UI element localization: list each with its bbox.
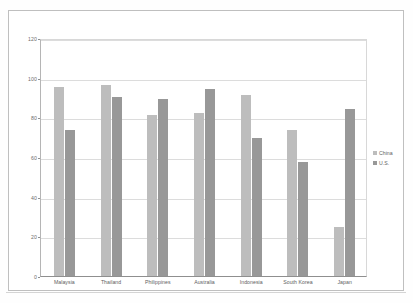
bar-indonesia-us [252, 138, 262, 276]
x-axis-tick-label: Indonesia [228, 279, 275, 285]
y-axis-tick-label: 60 [15, 155, 37, 161]
bar-thailand-china [101, 85, 111, 276]
legend-label-china: China [379, 150, 393, 156]
chart-legend: China U.S. [373, 149, 413, 169]
bar-japan-china [334, 227, 344, 276]
bar-south-korea-china [287, 130, 297, 276]
y-axis-tick-mark [38, 277, 40, 278]
bar-malaysia-china [54, 87, 64, 276]
y-axis-tick-mark [38, 158, 40, 159]
x-axis-tick-label: South Korea [275, 279, 322, 285]
bars-layer [41, 40, 366, 276]
x-axis-tick-label: Philippines [134, 279, 181, 285]
y-axis-tick-mark [38, 118, 40, 119]
y-axis-tick-label: 120 [15, 36, 37, 42]
x-axis-tick-label: Malaysia [41, 279, 88, 285]
bar-thailand-us [112, 97, 122, 276]
legend-swatch-icon-us [373, 161, 377, 165]
y-axis-tick-label: 20 [15, 234, 37, 240]
bar-chart-figure: 120100806040200 MalaysiaThailandPhilippi… [0, 0, 413, 303]
chart-frame: 120100806040200 MalaysiaThailandPhilippi… [8, 10, 404, 291]
bar-malaysia-us [65, 130, 75, 276]
y-axis-tick-label: 80 [15, 115, 37, 121]
y-axis-tick-label: 40 [15, 195, 37, 201]
y-axis-tick-label: 0 [15, 274, 37, 280]
bar-south-korea-us [298, 162, 308, 276]
y-axis: 120100806040200 [13, 39, 37, 277]
bar-japan-us [345, 109, 355, 276]
y-axis-tick-mark [38, 79, 40, 80]
legend-item-us[interactable]: U.S. [373, 159, 413, 166]
x-axis: MalaysiaThailandPhilippinesAustraliaIndo… [41, 279, 366, 291]
legend-swatch-icon-china [373, 151, 377, 155]
x-axis-tick-label: Japan [321, 279, 368, 285]
y-axis-tick-mark [38, 237, 40, 238]
legend-item-china[interactable]: China [373, 149, 413, 156]
bar-philippines-china [147, 115, 157, 276]
x-axis-tick-label: Thailand [88, 279, 135, 285]
bar-australia-china [194, 113, 204, 276]
bar-philippines-us [158, 99, 168, 276]
y-axis-tick-label: 100 [15, 76, 37, 82]
y-axis-tick-mark [38, 39, 40, 40]
legend-label-us: U.S. [379, 160, 389, 166]
x-axis-tick-label: Australia [181, 279, 228, 285]
bar-indonesia-china [241, 95, 251, 276]
y-axis-tick-mark [38, 198, 40, 199]
bar-australia-us [205, 89, 215, 276]
page-bottom-rule [6, 292, 406, 293]
